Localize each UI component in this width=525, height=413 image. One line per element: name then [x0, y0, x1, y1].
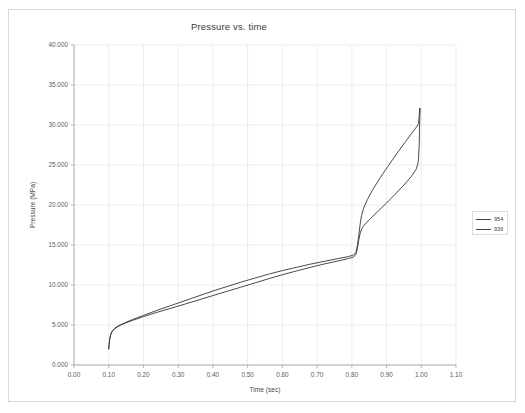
y-tick-label: 15.000 — [48, 241, 68, 248]
x-tick-label: 0.00 — [68, 371, 81, 378]
x-tick-label: 1.00 — [415, 371, 428, 378]
y-tick-label: 20.000 — [48, 201, 68, 208]
y-tick-label: 5.000 — [52, 321, 68, 328]
legend-line-swatch — [476, 219, 491, 220]
x-tick-label: 0.80 — [346, 371, 359, 378]
x-axis-title: Time (sec) — [250, 386, 281, 394]
plot-canvas: 0.0005.00010.00015.00020.00025.00030.000… — [9, 10, 517, 403]
x-tick-label: 0.60 — [276, 371, 289, 378]
x-tick-label: 0.20 — [137, 371, 150, 378]
series-line-936 — [109, 109, 421, 349]
x-tick-label: 0.40 — [207, 371, 220, 378]
legend-item[interactable]: 936 — [476, 225, 504, 233]
page-frame: Pressure vs. time 0.0005.00010.00015.000… — [8, 9, 516, 402]
y-tick-label: 0.000 — [52, 361, 68, 368]
x-tick-label: 0.10 — [103, 371, 116, 378]
y-tick-label: 35.000 — [48, 81, 68, 88]
legend-item-label: 954 — [494, 216, 503, 222]
x-tick-label: 1.10 — [450, 371, 463, 378]
legend-line-swatch — [476, 229, 491, 230]
x-tick-label: 0.70 — [311, 371, 324, 378]
legend-item-label: 936 — [494, 226, 503, 232]
legend-item[interactable]: 954 — [476, 215, 504, 223]
y-axis-title: Pressure (MPa) — [29, 182, 37, 228]
y-tick-label: 30.000 — [48, 121, 68, 128]
y-tick-label: 25.000 — [48, 161, 68, 168]
x-tick-label: 0.30 — [172, 371, 185, 378]
x-tick-label: 0.50 — [241, 371, 254, 378]
y-tick-label: 40.000 — [48, 41, 68, 48]
y-tick-label: 10.000 — [48, 281, 68, 288]
x-tick-label: 0.90 — [380, 371, 393, 378]
chart-container: Pressure vs. time 0.0005.00010.00015.000… — [9, 10, 517, 403]
chart-legend[interactable]: 954 936 — [472, 211, 508, 235]
